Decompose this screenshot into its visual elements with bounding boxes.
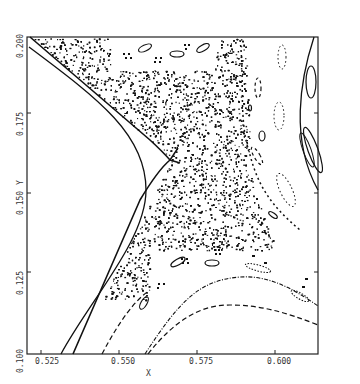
x-tick-label: 0.550 (111, 357, 135, 366)
chaotic-boundary (240, 40, 300, 230)
x-axis-label: X (146, 369, 151, 378)
y-tick-label: 0.175 (16, 112, 25, 136)
right-invariant-curves (297, 37, 326, 190)
y-tick-label: 0.150 (16, 191, 25, 215)
island-dot-clusters (123, 44, 308, 289)
poincare-plot (0, 0, 360, 384)
x-tick-label: 0.575 (189, 357, 213, 366)
x-tick-label: 0.525 (35, 357, 59, 366)
y-axis-label: Y (16, 180, 25, 185)
plot-frame (27, 37, 318, 354)
x-tick-label: 0.600 (267, 357, 291, 366)
y-tick-label: 0.200 (16, 34, 25, 58)
y-tick-label: 0.125 (16, 271, 25, 295)
chaotic-sea (35, 38, 275, 301)
axis-ticks (27, 113, 318, 354)
y-tick-label: 0.100 (16, 349, 25, 373)
island-chains (137, 42, 310, 311)
lower-invariant-curves (102, 277, 318, 354)
